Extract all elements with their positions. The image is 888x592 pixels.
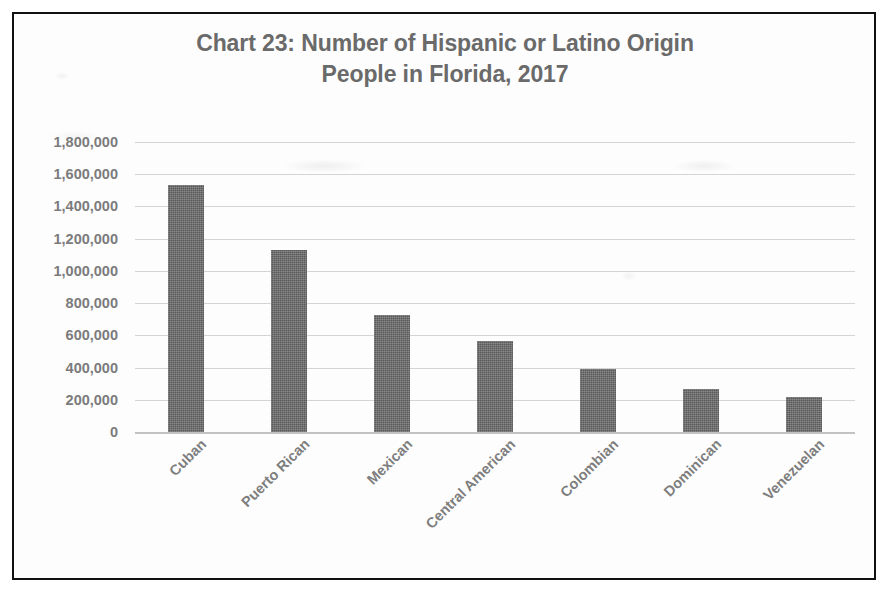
y-axis-tick-label: 1,800,000	[0, 135, 118, 149]
y-axis-tick-label: 1,600,000	[0, 167, 118, 181]
x-axis-tick-label-text: Central American	[422, 436, 518, 532]
bar	[374, 315, 410, 432]
x-axis-tick-label-text: Dominican	[660, 436, 724, 500]
x-axis-tick-label-text: Colombian	[557, 436, 621, 500]
x-axis-tick-label-text: Mexican	[364, 436, 416, 488]
y-axis: 0200,000400,000600,000800,0001,000,0001,…	[0, 142, 118, 432]
bar	[168, 185, 204, 432]
chart-title: Chart 23: Number of Hispanic or Latino O…	[60, 28, 830, 90]
x-axis: CubanPuerto RicanMexicanCentral American…	[135, 436, 855, 556]
gridline	[135, 271, 855, 272]
gridline	[135, 174, 855, 175]
x-axis-tick-label: Colombian	[557, 436, 621, 500]
x-axis-tick-label: Dominican	[660, 436, 724, 500]
y-axis-tick-label: 600,000	[0, 328, 118, 342]
x-axis-tick-label: Mexican	[364, 436, 416, 488]
y-axis-tick-label: 1,400,000	[0, 199, 118, 213]
chart-title-line-1: Chart 23: Number of Hispanic or Latino O…	[60, 28, 830, 59]
gridline	[135, 335, 855, 336]
gridline	[135, 303, 855, 304]
bar	[683, 389, 719, 432]
axis-baseline	[135, 432, 855, 434]
x-axis-tick-label: Central American	[422, 436, 518, 532]
gridline	[135, 239, 855, 240]
y-axis-tick-label: 200,000	[0, 393, 118, 407]
x-axis-tick-label: Puerto Rican	[238, 436, 312, 510]
x-axis-tick-label: Venezuelan	[760, 436, 827, 503]
chart-title-line-2: People in Florida, 2017	[60, 59, 830, 90]
x-axis-tick-label-text: Cuban	[167, 436, 210, 479]
chart-figure: Chart 23: Number of Hispanic or Latino O…	[0, 0, 888, 592]
x-axis-tick-label-text: Venezuelan	[760, 436, 827, 503]
gridline	[135, 206, 855, 207]
y-axis-tick-label: 400,000	[0, 361, 118, 375]
y-axis-tick-label: 800,000	[0, 296, 118, 310]
bar	[271, 250, 307, 432]
y-axis-tick-label: 0	[0, 425, 118, 439]
bar	[477, 341, 513, 432]
x-axis-tick-label: Cuban	[167, 436, 210, 479]
bar	[580, 369, 616, 432]
x-axis-tick-label-text: Puerto Rican	[238, 436, 313, 511]
y-axis-tick-label: 1,200,000	[0, 232, 118, 246]
plot-area	[135, 142, 855, 432]
y-axis-tick-label: 1,000,000	[0, 264, 118, 278]
bar	[786, 397, 822, 432]
gridline	[135, 142, 855, 143]
